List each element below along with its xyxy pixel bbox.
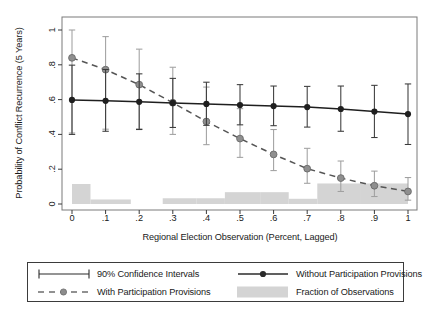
data-point-marker bbox=[170, 100, 176, 106]
legend-item-fraction-observations: Fraction of Observations bbox=[235, 284, 394, 300]
dashed-marker-line-icon bbox=[36, 285, 92, 299]
errorbar-icon bbox=[36, 267, 92, 281]
data-point-marker bbox=[405, 111, 411, 117]
y-tick-label: 0 bbox=[44, 199, 60, 209]
legend-label-confidence-intervals: 90% Confidence Intervals bbox=[97, 269, 199, 279]
data-point-marker bbox=[304, 104, 310, 110]
x-tick-label: .3 bbox=[162, 213, 184, 223]
data-point-marker bbox=[405, 188, 412, 195]
histogram-bar bbox=[196, 198, 225, 204]
data-point-marker bbox=[69, 54, 76, 61]
data-point-marker bbox=[237, 102, 243, 108]
legend-item-without-provisions: Without Participation Provisions bbox=[235, 266, 422, 282]
histogram-bar bbox=[289, 199, 318, 204]
x-tick-label: .4 bbox=[195, 213, 217, 223]
histogram-bar bbox=[72, 184, 90, 204]
histogram-bars bbox=[72, 183, 408, 204]
x-tick-label: .8 bbox=[330, 213, 352, 223]
legend-item-with-provisions: With Participation Provisions bbox=[36, 284, 211, 300]
histogram-bar bbox=[260, 192, 289, 204]
data-point-marker bbox=[203, 101, 209, 107]
legend-label-fraction-observations: Fraction of Observations bbox=[296, 287, 394, 297]
histogram-bar bbox=[361, 183, 408, 204]
data-point-marker bbox=[237, 135, 244, 142]
histogram-bar bbox=[225, 192, 260, 204]
solid-marker-line-icon bbox=[235, 267, 291, 281]
x-tick-label: .5 bbox=[229, 213, 251, 223]
y-tick-label: .6 bbox=[44, 95, 60, 105]
data-point-marker bbox=[136, 99, 142, 105]
data-point-marker bbox=[270, 151, 277, 158]
data-point-marker bbox=[371, 109, 377, 115]
y-tick-label: .4 bbox=[44, 129, 60, 139]
y-tick-label: .8 bbox=[44, 60, 60, 70]
data-point-marker bbox=[338, 106, 344, 112]
x-tick-label: .7 bbox=[296, 213, 318, 223]
x-tick-label: .9 bbox=[363, 213, 385, 223]
legend-label-with-provisions: With Participation Provisions bbox=[97, 287, 211, 297]
gray-swatch-icon bbox=[235, 285, 291, 299]
histogram-bar bbox=[163, 198, 197, 204]
figure-root: Probability of Conflict Recurrence (5 Ye… bbox=[0, 0, 431, 316]
legend-item-confidence-intervals: 90% Confidence Intervals bbox=[36, 266, 199, 282]
x-tick-label: 1 bbox=[397, 213, 419, 223]
y-tick-label: 1 bbox=[44, 25, 60, 35]
x-tick-label: .1 bbox=[95, 213, 117, 223]
data-point-marker bbox=[271, 103, 277, 109]
data-point-marker bbox=[103, 98, 109, 104]
chart-legend: 90% Confidence Intervals With Participat… bbox=[27, 262, 404, 302]
data-point-marker bbox=[69, 97, 75, 103]
data-point-marker bbox=[337, 175, 344, 182]
histogram-bar bbox=[90, 199, 130, 204]
data-point-marker bbox=[371, 182, 378, 189]
x-tick-label: 0 bbox=[61, 213, 83, 223]
histogram-bar bbox=[317, 183, 361, 204]
x-tick-label: .6 bbox=[263, 213, 285, 223]
x-tick-label: .2 bbox=[128, 213, 150, 223]
legend-label-without-provisions: Without Participation Provisions bbox=[296, 269, 422, 279]
data-point-marker bbox=[304, 165, 311, 172]
y-tick-label: .2 bbox=[44, 164, 60, 174]
